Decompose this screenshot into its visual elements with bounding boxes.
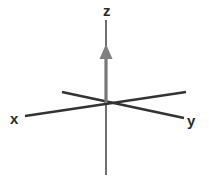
axes-vector-graphic xyxy=(0,0,209,182)
x-axis-label: x xyxy=(10,111,18,126)
z-axis-label: z xyxy=(103,3,111,18)
axes-diagram-canvas: z x y xyxy=(0,0,209,182)
y-axis-label: y xyxy=(187,113,195,128)
z-axis-arrowhead-icon xyxy=(100,44,113,59)
